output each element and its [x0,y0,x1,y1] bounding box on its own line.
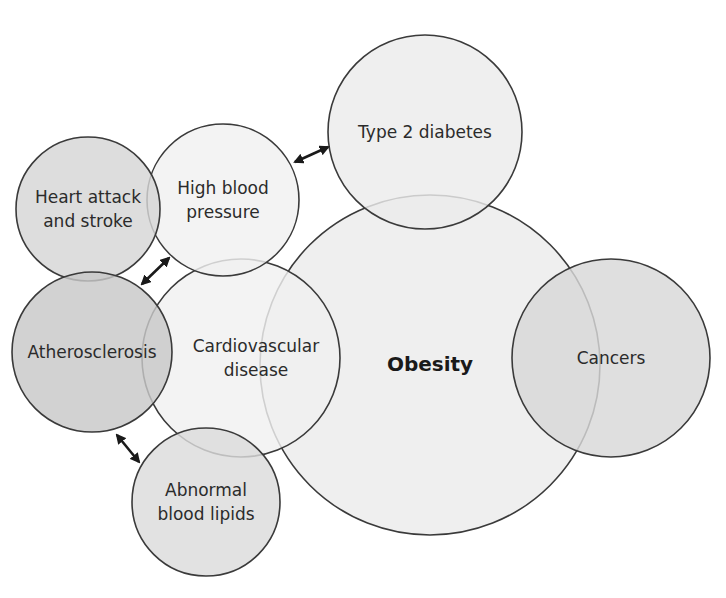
obesity-venn-diagram: ObesityType 2 diabetesCardiovasculardise… [0,0,726,598]
obesity-label: Obesity [387,352,473,376]
high-blood-pressure-label-line: High blood [177,178,269,198]
cardiovascular-disease-label-line: Cardiovascular [193,336,319,356]
heart-attack-and-stroke-circle [16,137,160,281]
abnormal-blood-lipids-label-line: blood lipids [157,504,254,524]
abnormal-blood-lipids-label-line: Abnormal [165,480,247,500]
type2-diabetes-label: Type 2 diabetes [357,122,492,142]
atherosclerosis-label: Atherosclerosis [27,342,156,362]
cancers-label-line: Cancers [577,348,646,368]
high-blood-pressure-label-line: pressure [186,202,259,222]
double-arrow-icon [142,258,169,284]
abnormal-blood-lipids-circle [132,428,280,576]
cancers-label: Cancers [577,348,646,368]
heart-attack-and-stroke-label-line: and stroke [43,211,133,231]
cardiovascular-disease-label-line: disease [224,360,289,380]
obesity-label-line: Obesity [387,352,473,376]
double-arrow-icon [117,435,139,462]
atherosclerosis-label-line: Atherosclerosis [27,342,156,362]
circles-layer [12,35,710,576]
heart-attack-and-stroke-label-line: Heart attack [35,187,141,207]
type2-diabetes-label-line: Type 2 diabetes [357,122,492,142]
high-blood-pressure-circle [147,124,299,276]
double-arrow-icon [295,147,328,162]
